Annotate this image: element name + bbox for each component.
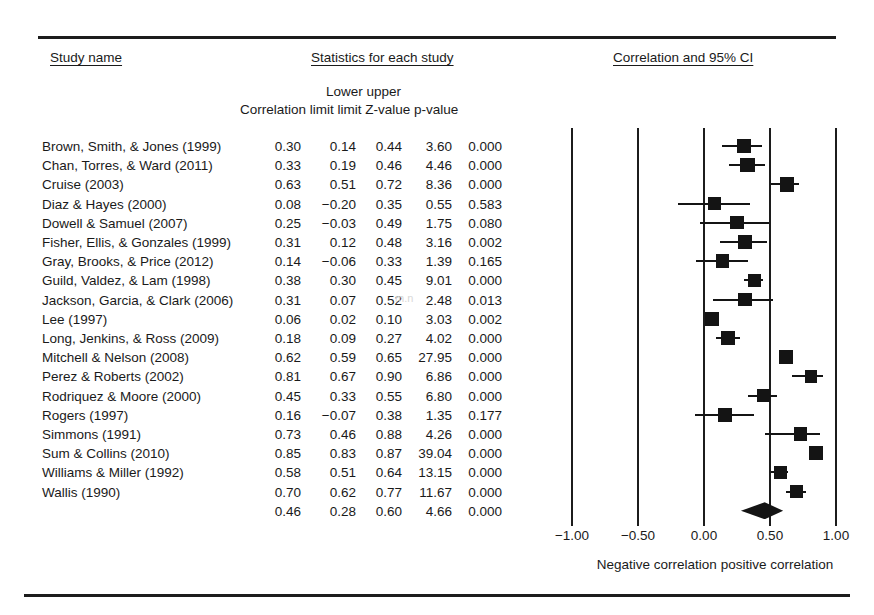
gridline-0.50 [769,128,771,524]
scan-artifact: m.n [395,292,413,304]
axis-tick-label: −0.50 [603,528,673,543]
effect-size-marker [716,254,730,268]
effect-size-marker [721,331,735,345]
effect-size-marker [790,485,803,498]
gridline-minus1.00 [571,128,573,524]
axis-tick-label: 0.50 [735,528,805,543]
effect-size-marker [740,158,754,172]
axis-tick-label: 1.00 [801,528,871,543]
confidence-interval-line [765,433,820,435]
effect-size-marker [780,177,794,191]
gridline-minus0.50 [637,128,639,524]
axis-tick-label: −1.00 [537,528,607,543]
effect-size-marker [794,427,808,441]
axis-tick [571,508,573,526]
forest-plot-figure: Study name Statistics for each study Cor… [0,0,874,615]
gridline-1.00 [835,128,837,524]
axis-tick [703,508,705,526]
effect-size-marker [718,408,732,422]
effect-size-marker [748,274,761,287]
effect-size-marker [779,350,793,364]
effect-size-marker [809,446,823,460]
effect-size-marker [708,197,721,210]
effect-size-marker [774,466,788,480]
effect-size-marker [737,139,751,153]
summary-diamond [741,502,783,519]
effect-size-marker [757,389,771,403]
effect-size-marker [730,216,743,229]
axis-caption: Negative correlation positive correlatio… [556,557,874,572]
forest-plot-area: −1.00−0.500.000.501.00Negative correlati… [0,0,874,615]
effect-size-marker [738,293,752,307]
axis-tick-label: 0.00 [669,528,739,543]
axis-tick [637,508,639,526]
axis-tick [835,508,837,526]
effect-size-marker [705,312,720,327]
effect-size-marker [738,235,752,249]
effect-size-marker [805,370,818,383]
